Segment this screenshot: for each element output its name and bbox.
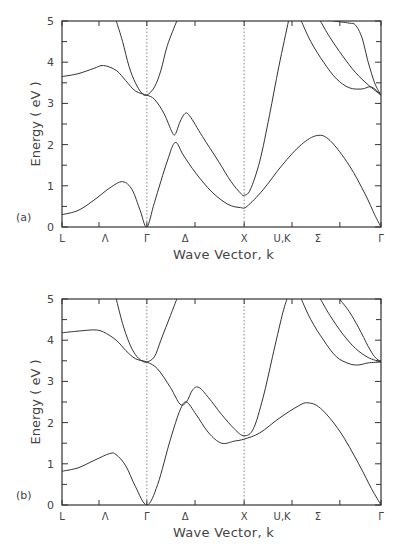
x-tick-label: X	[241, 511, 248, 522]
x-tick-label: L	[59, 511, 65, 522]
band-curve-band4	[301, 21, 381, 95]
x-tick-label: X	[241, 233, 248, 244]
y-tick-label: 3	[47, 97, 54, 110]
y-tick-label: 1	[47, 458, 54, 471]
band-curve-band2	[62, 21, 289, 196]
band-structure-figure: 012345LΛΓΔXU,KΣΓWave Vector, kEnergy ( e…	[0, 0, 393, 549]
panel-label: (b)	[16, 489, 32, 502]
y-tick-label: 4	[47, 56, 54, 69]
band-curve-band1	[62, 402, 381, 505]
y-tick-label: 4	[47, 334, 54, 347]
plot-frame	[62, 299, 381, 505]
y-tick-label: 5	[47, 15, 54, 28]
x-tick-label: Γ	[378, 233, 384, 244]
y-tick-label: 5	[47, 293, 54, 306]
y-tick-label: 0	[47, 499, 54, 512]
x-tick-label: Γ	[378, 511, 384, 522]
x-tick-label: U,K	[274, 233, 291, 244]
x-tick-label: Γ	[144, 511, 150, 522]
y-axis-label: Energy ( eV )	[28, 360, 43, 445]
band-curve-band1	[62, 135, 381, 227]
y-tick-label: 1	[47, 180, 54, 193]
x-tick-label: L	[59, 233, 65, 244]
y-tick-label: 2	[47, 417, 54, 430]
x-axis-label: Wave Vector, k	[173, 525, 274, 540]
x-tick-label: Σ	[315, 233, 321, 244]
band-curve-band5	[320, 21, 381, 95]
plot-frame	[62, 21, 381, 227]
x-tick-label: U,K	[274, 511, 291, 522]
panel-b: 012345LΛΓΔXU,KΣΓWave Vector, kEnergy ( e…	[16, 293, 384, 540]
band-curve-band6	[333, 21, 381, 95]
x-tick-label: Γ	[144, 233, 150, 244]
panel-label: (a)	[16, 211, 31, 224]
x-tick-label: Δ	[182, 233, 189, 244]
x-tick-label: Δ	[182, 511, 189, 522]
x-tick-label: Λ	[102, 233, 109, 244]
y-tick-label: 2	[47, 139, 54, 152]
panel-a: 012345LΛΓΔXU,KΣΓWave Vector, kEnergy ( e…	[16, 15, 384, 262]
y-tick-label: 3	[47, 375, 54, 388]
x-tick-label: Σ	[315, 511, 321, 522]
x-tick-label: Λ	[102, 511, 109, 522]
y-axis-label: Energy ( eV )	[28, 82, 43, 167]
y-tick-label: 0	[47, 221, 54, 234]
band-curve-band2	[62, 299, 287, 436]
x-axis-label: Wave Vector, k	[173, 247, 274, 262]
